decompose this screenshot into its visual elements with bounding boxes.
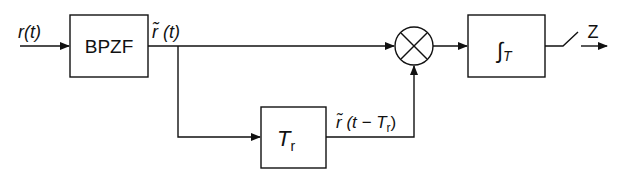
- input-label: r(t): [18, 22, 41, 42]
- integrator-block: [468, 15, 545, 77]
- delay-label: Tr: [277, 126, 295, 154]
- sampling-switch: [545, 32, 578, 46]
- output-label: Z: [588, 22, 599, 42]
- receiver-block-diagram: r(t) BPZF r̃ (t) Tr r̃ (t − Tr) ∫T Z: [0, 0, 624, 179]
- filtered-signal-label: r̃ (t): [152, 21, 180, 42]
- delay-branch-arrow: [178, 46, 260, 137]
- integrator-label: ∫T: [495, 38, 513, 64]
- bandpass-label: BPZF: [85, 36, 134, 57]
- delayed-signal-label: r̃ (t − Tr): [336, 112, 397, 135]
